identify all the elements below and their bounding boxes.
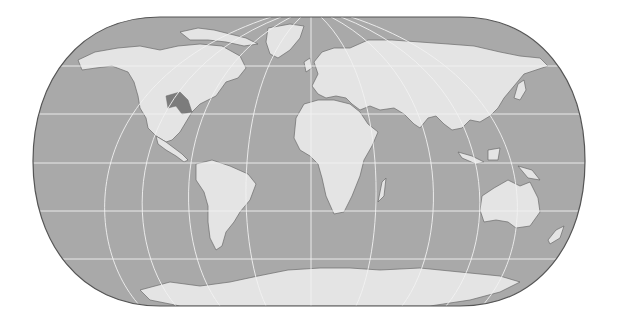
world-map (0, 0, 618, 327)
world-map-svg (0, 0, 618, 327)
